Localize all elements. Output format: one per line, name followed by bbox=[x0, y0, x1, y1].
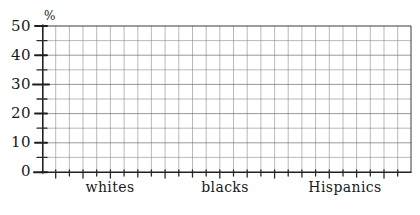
x-category-label-blacks: blacks bbox=[185, 180, 265, 194]
y-tick-label-30: 30 bbox=[1, 77, 31, 92]
grid-horizontal-lines bbox=[42, 41, 411, 158]
y-tick-label-40: 40 bbox=[1, 48, 31, 63]
y-axis-unit-label: % bbox=[44, 10, 56, 22]
x-category-label-whites: whites bbox=[70, 180, 150, 194]
y-tick-label-20: 20 bbox=[1, 106, 31, 121]
y-axis-ticks bbox=[33, 26, 49, 172]
y-tick-label-50: 50 bbox=[1, 19, 31, 34]
y-tick-label-0: 0 bbox=[1, 164, 31, 179]
chart-container: % 50 40 30 20 10 0 whites blacks Hispani… bbox=[0, 0, 420, 215]
x-category-label-hispanics: Hispanics bbox=[290, 180, 400, 194]
y-tick-label-10: 10 bbox=[1, 135, 31, 150]
x-axis-ticks bbox=[56, 170, 398, 178]
